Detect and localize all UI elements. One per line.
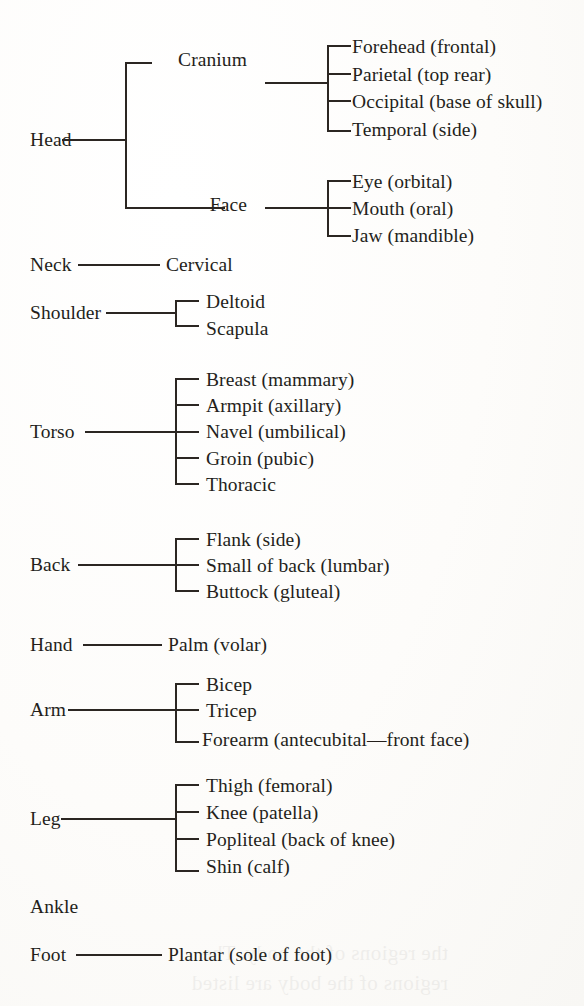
tree-node-forehead-frontal: Forehead (frontal) [352,37,496,57]
bracket-head [125,62,127,207]
connector-neck [78,264,160,266]
tree-node-hand: Hand [30,635,73,655]
branch-stub-thoracic [175,483,199,485]
branch-stub-eye-orbital [327,180,351,182]
branch-stub-deltoid [175,300,199,302]
tree-node-eye-orbital: Eye (orbital) [352,172,452,192]
tree-node-scapula: Scapula [206,319,268,339]
bracket-cranium [327,45,329,130]
connector-leg [61,818,175,820]
tree-node-leg: Leg [30,809,61,829]
connector-head [62,139,125,141]
branch-stub-small-of-back-lumbar [175,564,199,566]
tree-node-buttock-gluteal: Buttock (gluteal) [206,582,340,602]
tree-node-small-of-back-lumbar: Small of back (lumbar) [206,556,390,576]
tree-node-breast-mammary: Breast (mammary) [206,370,354,390]
tree-node-deltoid: Deltoid [206,292,265,312]
tree-node-forearm-antecubital-front-face: Forearm (antecubital—front face) [202,730,469,750]
tree-node-shin-calf: Shin (calf) [206,857,290,877]
stub-cranium [125,62,152,64]
branch-stub-groin-pubic [175,457,199,459]
tree-node-palm-volar: Palm (volar) [168,635,267,655]
tree-node-tricep: Tricep [206,701,257,721]
branch-stub-armpit-axillary [175,404,199,406]
branch-stub-occipital-base-of-skull [327,100,351,102]
tree-node-face: Face [210,195,247,215]
tree-node-parietal-top-rear: Parietal (top rear) [352,65,491,85]
connector-face [265,207,327,209]
tree-node-armpit-axillary: Armpit (axillary) [206,396,341,416]
bracket-leg [175,784,177,870]
branch-stub-breast-mammary [175,378,199,380]
tree-node-back: Back [30,555,70,575]
tree-node-bicep: Bicep [206,675,252,695]
branch-stub-mouth-oral [327,207,351,209]
connector-back [78,564,175,566]
body-regions-tree-diagram: HeadCraniumForehead (frontal)Parietal (t… [0,0,584,1006]
branch-stub-shin-calf [175,870,199,872]
branch-stub-scapula [175,325,199,327]
tree-node-ankle: Ankle [30,897,78,917]
branch-stub-tricep [175,709,199,711]
tree-node-mouth-oral: Mouth (oral) [352,199,453,219]
connector-cranium [265,82,327,84]
bracket-arm [175,683,177,741]
branch-stub-jaw-mandible [327,235,351,237]
tree-node-jaw-mandible: Jaw (mandible) [352,226,474,246]
connector-foot [76,954,162,956]
tree-node-plantar-sole-of-foot: Plantar (sole of foot) [168,945,332,965]
branch-stub-bicep [175,683,199,685]
connector-torso [85,431,175,433]
branch-stub-thigh-femoral [175,784,199,786]
branch-stub-forehead-frontal [327,45,351,47]
tree-node-flank-side: Flank (side) [206,530,301,550]
branch-stub-knee-patella [175,811,199,813]
tree-node-popliteal-back-of-knee: Popliteal (back of knee) [206,830,395,850]
connector-arm [68,709,175,711]
branch-stub-navel-umbilical [175,431,199,433]
branch-stub-buttock-gluteal [175,590,199,592]
branch-stub-temporal-side [327,130,351,132]
stub-face [125,207,225,209]
tree-node-neck: Neck [30,255,72,275]
tree-node-groin-pubic: Groin (pubic) [206,449,314,469]
branch-stub-popliteal-back-of-knee [175,838,199,840]
tree-node-torso: Torso [30,422,75,442]
tree-node-thigh-femoral: Thigh (femoral) [206,776,333,796]
tree-node-foot: Foot [30,945,66,965]
tree-node-temporal-side: Temporal (side) [352,120,477,140]
tree-node-knee-patella: Knee (patella) [206,803,318,823]
connector-shoulder [106,312,175,314]
tree-node-occipital-base-of-skull: Occipital (base of skull) [352,92,542,112]
tree-node-thoracic: Thoracic [206,475,276,495]
tree-node-shoulder: Shoulder [30,303,101,323]
tree-node-navel-umbilical: Navel (umbilical) [206,422,346,442]
connector-hand [83,644,162,646]
tree-node-arm: Arm [30,700,66,720]
branch-stub-flank-side [175,538,199,540]
branch-stub-forearm-antecubital-front-face [175,741,199,743]
tree-node-cervical: Cervical [166,255,233,275]
bracket-shoulder [175,300,177,325]
branch-stub-parietal-top-rear [327,73,351,75]
tree-node-cranium: Cranium [178,50,247,70]
